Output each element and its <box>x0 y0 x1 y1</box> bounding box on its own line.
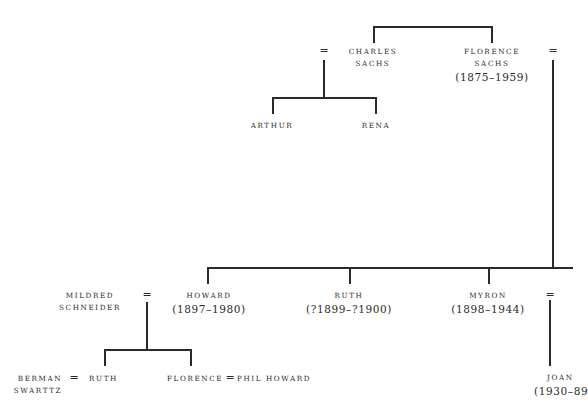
descent-line-myron <box>549 300 551 366</box>
name-line2: SWARTTZ <box>14 385 62 397</box>
name-line1: FLORENCE <box>455 46 529 58</box>
descent-line-florence <box>552 60 554 269</box>
connector-rena <box>375 97 377 114</box>
connector-ruth-2 <box>104 349 106 366</box>
connector-florence-2 <box>190 349 192 366</box>
connector-arthur <box>272 97 274 114</box>
descent-line-charles <box>323 60 325 98</box>
connector-myron <box>488 267 490 284</box>
connector-howard <box>207 267 209 284</box>
life-dates: (?1899–?1900) <box>306 302 392 316</box>
life-dates: (1898–1944) <box>451 302 525 316</box>
person-berman-swarttz: BERMAN SWARTTZ <box>18 373 62 397</box>
person-joan: JOAN (1930–89 <box>534 372 588 398</box>
name-line2: SACHS <box>455 58 529 70</box>
marriage-symbol-florence-2: = <box>225 372 234 384</box>
connector-florence <box>491 26 493 43</box>
life-dates: (1875–1959) <box>455 70 529 84</box>
person-rena: RENA <box>362 120 391 132</box>
children-bracket-charles <box>272 97 377 99</box>
name-line1: MILDRED <box>59 290 121 302</box>
children-bracket-florence <box>207 267 573 269</box>
person-myron: MYRON (1898–1944) <box>451 290 525 316</box>
children-bracket-howard <box>104 349 192 351</box>
name: JOAN <box>547 372 588 384</box>
person-florence-sachs: FLORENCE SACHS (1875–1959) <box>455 46 529 84</box>
person-ruth: RUTH (?1899–?1900) <box>306 290 392 316</box>
marriage-symbol-florence: = <box>548 45 557 57</box>
name: RUTH <box>306 290 392 302</box>
person-howard: HOWARD (1897–1980) <box>172 290 246 316</box>
name-line1: BERMAN <box>18 373 62 385</box>
person-florence-2: FLORENCE <box>167 373 223 385</box>
marriage-symbol-charles: = <box>319 45 328 57</box>
name-line2: SACHS <box>349 58 398 70</box>
name: MYRON <box>451 290 525 302</box>
descent-line-howard <box>146 302 148 350</box>
person-arthur: ARTHUR <box>251 120 294 132</box>
name-line2: SCHNEIDER <box>59 302 121 314</box>
marriage-symbol-ruth-2: = <box>69 372 78 384</box>
life-dates: (1897–1980) <box>172 302 246 316</box>
person-mildred-schneider: MILDRED SCHNEIDER <box>59 290 121 314</box>
sibling-bracket-top <box>373 26 493 28</box>
connector-ruth <box>349 267 351 284</box>
person-phil-howard: PHIL HOWARD <box>237 373 311 385</box>
marriage-symbol-howard: = <box>142 289 151 301</box>
name-line1: CHARLES <box>349 46 398 58</box>
name: HOWARD <box>172 290 246 302</box>
life-dates: (1930–89 <box>534 384 588 398</box>
person-ruth-2: RUTH <box>89 373 118 385</box>
connector-charles <box>373 26 375 43</box>
person-charles-sachs: CHARLES SACHS <box>349 46 398 70</box>
